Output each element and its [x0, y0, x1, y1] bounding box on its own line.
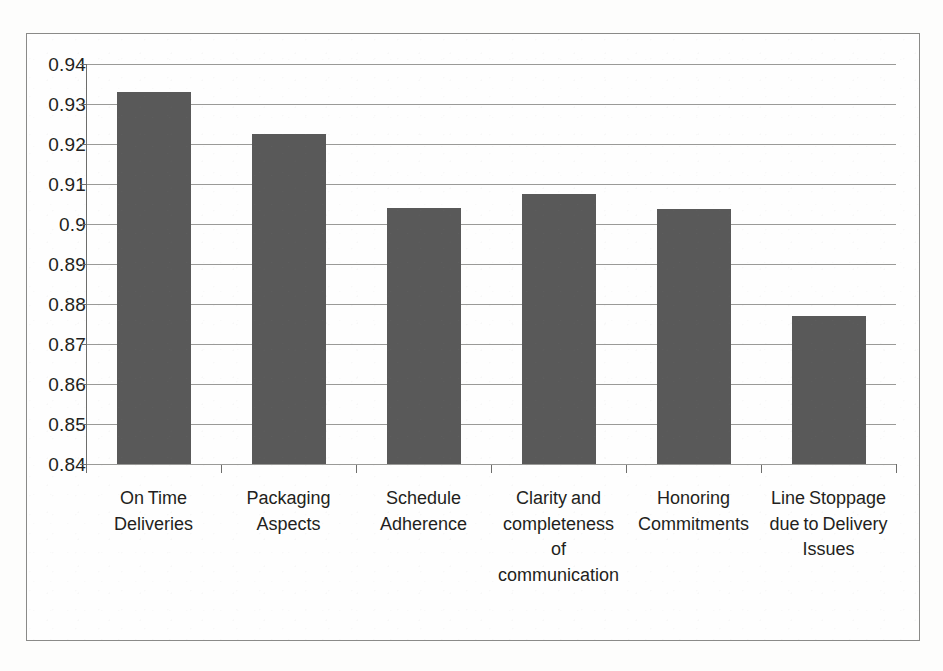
plot-area: 0.940.930.920.910.90.890.880.870.860.850… [27, 34, 921, 642]
x-axis-category-label-line: completeness [491, 512, 626, 538]
y-axis-tick-label: 0.89 [30, 255, 86, 274]
x-axis-category-label-line: communication [491, 563, 626, 589]
x-axis-category-label-line: Commitments [626, 512, 761, 538]
bar [387, 208, 461, 464]
x-axis-category-label: Line Stoppagedue to DeliveryIssues [761, 486, 896, 563]
x-axis-category-label-line: Schedule [356, 486, 491, 512]
y-axis-tick-label: 0.86 [30, 375, 86, 394]
x-axis-category-label-line: Issues [761, 537, 896, 563]
y-axis-tick-label: 0.92 [30, 135, 86, 154]
y-axis-tick-label: 0.91 [30, 175, 86, 194]
x-axis-category-label: Clarity andcompletenessofcommunication [491, 486, 626, 588]
x-axis-category-label: HonoringCommitments [626, 486, 761, 537]
bar [792, 316, 866, 464]
x-axis-category-label: ScheduleAdherence [356, 486, 491, 537]
y-axis-tick-label: 0.84 [30, 455, 86, 474]
x-axis-category-label-line: Line Stoppage [761, 486, 896, 512]
x-axis-category-label-line: due to Delivery [761, 512, 896, 538]
bar [522, 194, 596, 464]
x-axis-category-label-line: Honoring [626, 486, 761, 512]
chart-frame: 0.940.930.920.910.90.890.880.870.860.850… [26, 33, 920, 641]
bar [657, 209, 731, 464]
x-axis-category-label-line: Adherence [356, 512, 491, 538]
y-axis-tick-labels: 0.940.930.920.910.90.890.880.870.860.850… [27, 34, 86, 642]
x-axis-category-label-line: of [491, 537, 626, 563]
y-axis-tick-label: 0.85 [30, 415, 86, 434]
y-axis-tick-label: 0.94 [30, 55, 86, 74]
x-axis-category-label-line: Packaging [221, 486, 356, 512]
x-axis-category-label-line: Clarity and [491, 486, 626, 512]
y-axis-tick-label: 0.93 [30, 95, 86, 114]
x-axis-category-label-line: On Time [86, 486, 221, 512]
x-axis-category-label-line: Aspects [221, 512, 356, 538]
y-axis-tick-label: 0.87 [30, 335, 86, 354]
y-axis-tick-label: 0.88 [30, 295, 86, 314]
bar [252, 134, 326, 464]
x-axis-category-label: On TimeDeliveries [86, 486, 221, 537]
y-axis-tick-label: 0.9 [30, 215, 86, 234]
bar [117, 92, 191, 464]
x-axis-category-labels: On TimeDeliveriesPackagingAspectsSchedul… [86, 486, 921, 636]
x-axis-category-label-line: Deliveries [86, 512, 221, 538]
x-axis-category-label: PackagingAspects [221, 486, 356, 537]
